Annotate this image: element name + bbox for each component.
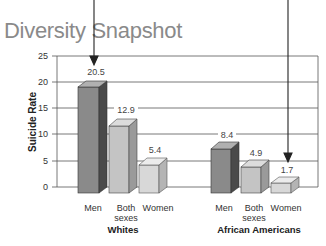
value-label: 8.4 — [221, 130, 234, 140]
y-axis-label: Suicide Rate — [27, 92, 38, 152]
category-labels: Men Both sexes Women Men Both sexes Wome… — [84, 203, 301, 235]
bar-whites-men — [78, 81, 107, 193]
tick-5: 5 — [43, 156, 48, 166]
tick-20: 20 — [38, 77, 48, 87]
bar-aa-both — [241, 160, 269, 193]
category-label: Both — [117, 203, 136, 213]
y-axis-ticks: 25 20 15 10 5 0 — [38, 51, 48, 192]
category-label: Women — [143, 203, 174, 213]
category-label: Both — [245, 203, 264, 213]
tick-0: 0 — [43, 182, 48, 192]
bar-whites-both — [109, 119, 137, 193]
tick-10: 10 — [38, 129, 48, 139]
bar-whites-women — [139, 158, 167, 193]
value-label: 4.9 — [250, 148, 263, 158]
category-label: Women — [271, 203, 302, 213]
category-label: Men — [215, 203, 233, 213]
value-label: 5.4 — [149, 145, 162, 155]
group-label: African Americans — [217, 224, 301, 235]
value-label: 1.7 — [281, 165, 294, 175]
group-label: Whites — [107, 224, 138, 235]
bar-aa-women — [271, 177, 299, 193]
category-label: sexes — [242, 213, 266, 223]
value-label: 20.5 — [87, 67, 105, 77]
arrow-down-icon — [90, 56, 98, 65]
value-label: 12.9 — [117, 105, 135, 115]
bar-aa-men — [211, 142, 239, 193]
category-label: Men — [84, 203, 102, 213]
tick-25: 25 — [38, 51, 48, 61]
tick-15: 15 — [38, 103, 48, 113]
category-label: sexes — [114, 213, 138, 223]
bar-chart: 25 20 15 10 5 0 Suicide Rate — [0, 0, 326, 246]
